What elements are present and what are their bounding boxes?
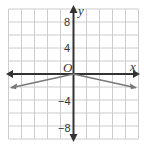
y-axis-label: y	[78, 4, 84, 17]
origin-label: O	[63, 61, 72, 74]
y-axis-down-arrow-icon	[70, 134, 78, 142]
x-axis-label: x	[130, 60, 136, 73]
coordinate-plane	[0, 0, 144, 150]
x-axis-left-arrow-icon	[6, 70, 13, 78]
y-tick-label-8: 8	[64, 17, 70, 28]
y-tick-label-4: 4	[64, 43, 70, 54]
y-tick-label-neg4: −4	[58, 96, 71, 107]
y-tick-label-neg8: −8	[58, 123, 71, 134]
